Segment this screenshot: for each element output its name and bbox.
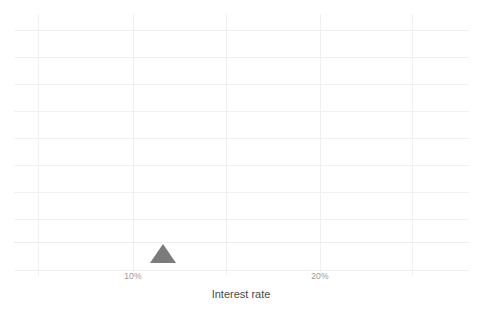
x-axis-title: Interest rate <box>212 288 271 300</box>
dot-plot-chart: 10% 20% Interest rate <box>0 0 481 314</box>
x-tick-label-20pct: 20% <box>311 271 329 281</box>
x-tick-label-10pct: 10% <box>124 271 142 281</box>
mean-marker-triangle-icon <box>150 244 176 263</box>
plot-area <box>0 0 481 314</box>
